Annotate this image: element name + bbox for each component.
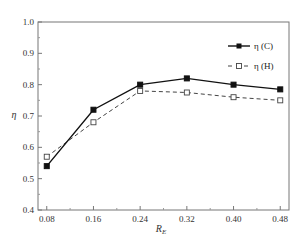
data-point-filled-square bbox=[231, 82, 236, 87]
x-tick-label: 0.24 bbox=[132, 214, 148, 224]
data-point-hollow-square bbox=[184, 90, 189, 95]
x-tick-label: 0.40 bbox=[226, 214, 242, 224]
y-tick-label: 0.7 bbox=[23, 111, 35, 121]
y-tick-label: 0.9 bbox=[23, 48, 35, 58]
legend-filled-square-icon bbox=[237, 44, 242, 49]
y-tick-label: 0.4 bbox=[23, 205, 35, 215]
data-point-filled-square bbox=[184, 76, 189, 81]
data-point-filled-square bbox=[278, 87, 283, 92]
x-tick-label: 0.16 bbox=[86, 214, 102, 224]
y-tick-label: 0.6 bbox=[23, 142, 35, 152]
data-point-filled-square bbox=[44, 164, 49, 169]
y-tick-label: 1.0 bbox=[23, 17, 35, 27]
x-axis-label-subscript: E bbox=[161, 228, 167, 236]
legend-label: η (C) bbox=[254, 41, 273, 51]
line-chart: 0.40.50.60.70.80.91.0 0.080.160.240.320.… bbox=[0, 0, 303, 251]
legend-hollow-square-icon bbox=[237, 64, 242, 69]
y-tick-label: 0.5 bbox=[23, 174, 35, 184]
y-axis-label: η bbox=[12, 109, 17, 120]
x-tick-label: 0.08 bbox=[39, 214, 55, 224]
data-point-hollow-square bbox=[91, 120, 96, 125]
data-point-hollow-square bbox=[44, 154, 49, 159]
x-tick-label: 0.32 bbox=[179, 214, 195, 224]
data-point-hollow-square bbox=[278, 98, 283, 103]
data-point-hollow-square bbox=[138, 88, 143, 93]
data-point-hollow-square bbox=[231, 95, 236, 100]
data-point-filled-square bbox=[138, 82, 143, 87]
legend-label: η (H) bbox=[254, 61, 273, 71]
x-tick-label: 0.48 bbox=[272, 214, 288, 224]
data-point-filled-square bbox=[91, 107, 96, 112]
y-tick-label: 0.8 bbox=[23, 80, 35, 90]
x-axis-label-main: R bbox=[155, 223, 162, 234]
